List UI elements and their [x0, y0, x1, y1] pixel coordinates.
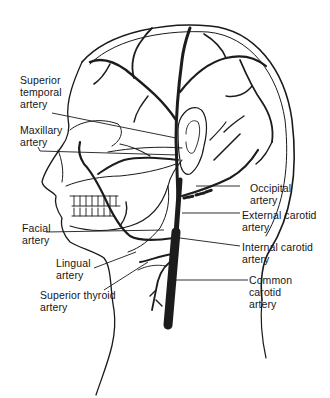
ear-outer: [178, 108, 206, 175]
label-maxillary-artery: Maxillary artery: [20, 124, 62, 148]
label-superior-thyroid-artery: Superior thyroid artery: [40, 289, 116, 313]
ear-inner: [186, 121, 200, 154]
common-carotid-artery-vessel: [168, 232, 176, 325]
occipital-artery-vessel: [182, 150, 258, 196]
label-internal-carotid-artery: Internal carotid artery: [242, 241, 313, 265]
label-superior-temporal-artery: Superior temporal artery: [20, 74, 62, 110]
label-common-carotid-artery: Common carotid artery: [249, 274, 292, 310]
label-facial-artery: Facial artery: [22, 222, 51, 246]
label-external-carotid-artery: External carotid artery: [242, 209, 317, 233]
maxillary-artery-vessel: [98, 158, 178, 174]
mandible-ramus: [128, 186, 169, 252]
leader-internal-carotid: [180, 238, 240, 246]
mandible: [70, 160, 182, 231]
zygomatic-arch: [108, 147, 182, 152]
head-neck-artery-diagram: Superior temporal artery Maxillary arter…: [0, 0, 330, 398]
label-occipital-artery: Occipital artery: [250, 182, 291, 206]
maxilla: [66, 164, 176, 186]
nasal-bone: [58, 150, 63, 182]
label-lingual-artery: Lingual artery: [56, 257, 91, 281]
facial-artery-vessel: [79, 142, 174, 240]
orbit: [70, 121, 121, 146]
leader-superior-temporal: [52, 113, 176, 138]
leader-lingual: [94, 252, 136, 268]
lingual-artery-vessel: [140, 254, 172, 262]
